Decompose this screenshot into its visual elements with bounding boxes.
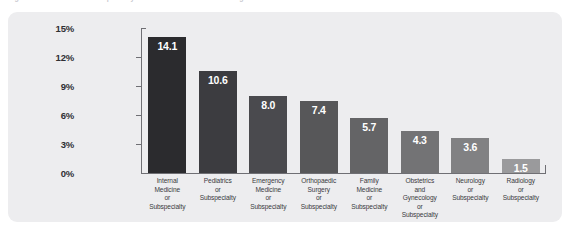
x-axis-category-line: and [393, 186, 448, 195]
x-axis-category-line: or [393, 203, 448, 212]
x-axis-category-line: Pediatrics [191, 177, 246, 186]
x-axis-category-line: Medicine [241, 186, 296, 195]
bar-column[interactable]: 5.7 [350, 28, 388, 173]
x-axis-category-line: Gynecology [393, 194, 448, 203]
bar[interactable]: 3.6 [451, 138, 489, 173]
y-axis-tick-mark [136, 144, 142, 145]
bar-value-label: 8.0 [249, 99, 287, 111]
caption-fragment: Residents [368, 0, 403, 1]
x-axis-category-line: Medicine [140, 186, 195, 195]
x-axis-categories: InternalMedicineorSubspecialtyPediatrics… [142, 177, 546, 223]
x-axis-category-line: or [443, 186, 498, 195]
caption-fragment: Percentage [208, 0, 248, 1]
bar[interactable]: 7.4 [300, 101, 338, 173]
x-axis-category-label: InternalMedicineorSubspecialty [140, 177, 195, 211]
bar[interactable]: 4.3 [401, 131, 439, 173]
x-axis-category-label: PediatricsorSubspecialty [191, 177, 246, 203]
x-axis-category-line: Family [342, 177, 397, 186]
x-axis-category-line: Surgery [292, 186, 347, 195]
bar[interactable]: 5.7 [350, 118, 388, 173]
x-axis-category-line: or [191, 186, 246, 195]
bar[interactable]: 10.6 [199, 71, 237, 173]
bar-value-label: 3.6 [451, 141, 489, 153]
x-axis-category-line: Subspecialty [443, 194, 498, 203]
caption-fragment: Figure [8, 0, 31, 1]
bar-column[interactable]: 1.5 [502, 28, 540, 173]
y-axis-tick-label: 0% [61, 168, 74, 179]
x-axis-category-label: EmergencyMedicineorSubspecialty [241, 177, 296, 211]
y-axis-tick-label: 15% [56, 23, 74, 34]
x-axis-category-line: or [494, 186, 549, 195]
x-axis-category-line: Subspecialty [191, 194, 246, 203]
bar-value-label: 7.4 [300, 104, 338, 116]
bar-column[interactable]: 8.0 [249, 28, 287, 173]
x-axis-category-line: Subspecialty [494, 194, 549, 203]
x-axis-category-label: ObstetricsandGynecologyorSubspecialty [393, 177, 448, 220]
chart-panel: 15%12%9%6%3%0% 14.110.68.07.45.74.33.61.… [8, 12, 562, 222]
x-axis-category-line: Subspecialty [140, 203, 195, 212]
y-axis: 15%12%9%6%3%0% [34, 28, 74, 172]
x-axis-category-line: Obstetrics [393, 177, 448, 186]
x-axis-category-line: Neurology [443, 177, 498, 186]
bar-column[interactable]: 14.1 [148, 28, 186, 173]
y-axis-tick-label: 6% [61, 110, 74, 121]
bar-value-label: 14.1 [148, 40, 186, 52]
x-axis-category-line: Subspecialty [292, 203, 347, 212]
bar-column[interactable]: 7.4 [300, 28, 338, 173]
x-axis-category-line: Subspecialty [241, 203, 296, 212]
x-axis-category-line: Subspecialty [342, 203, 397, 212]
bar-value-label: 1.5 [502, 162, 540, 174]
plot-area: 15%12%9%6%3%0% 14.110.68.07.45.74.33.61.… [8, 12, 562, 222]
x-axis-category-line: or [241, 194, 296, 203]
x-axis-category-line: or [342, 194, 397, 203]
x-axis-category-line: Orthopaedic [292, 177, 347, 186]
bar-series: 14.110.68.07.45.74.33.61.5 [142, 28, 546, 173]
y-axis-tick-mark [136, 57, 142, 58]
x-axis-category-line: or [292, 194, 347, 203]
y-axis-tick-mark [136, 86, 142, 87]
y-axis-tick-label: 12% [56, 52, 74, 63]
bar[interactable]: 1.5 [502, 159, 540, 174]
x-axis-category-line: Radiology [494, 177, 549, 186]
bar[interactable]: 14.1 [148, 37, 186, 173]
y-axis-tick-label: 3% [61, 139, 74, 150]
x-axis-category-label: FamilyMedicineorSubspecialty [342, 177, 397, 211]
caption-fragment: Specialty [102, 0, 135, 1]
bar[interactable]: 8.0 [249, 96, 287, 173]
bar-column[interactable]: 3.6 [451, 28, 489, 173]
x-axis-category-line: or [140, 194, 195, 203]
bar-value-label: 5.7 [350, 121, 388, 133]
bar-column[interactable]: 10.6 [199, 28, 237, 173]
bar-value-label: 4.3 [401, 134, 439, 146]
clipped-caption-strip: FigureSpecialtyPercentageResidents [0, 0, 570, 11]
y-axis-tick-mark [136, 115, 142, 116]
x-axis-category-line: Subspecialty [393, 211, 448, 220]
x-axis-category-label: RadiologyorSubspecialty [494, 177, 549, 203]
x-axis-category-label: NeurologyorSubspecialty [443, 177, 498, 203]
y-axis-tick-label: 9% [61, 81, 74, 92]
x-axis-category-label: OrthopaedicSurgeryorSubspecialty [292, 177, 347, 211]
bar-column[interactable]: 4.3 [401, 28, 439, 173]
bar-value-label: 10.6 [199, 74, 237, 86]
x-axis-category-line: Internal [140, 177, 195, 186]
x-axis-category-line: Medicine [342, 186, 397, 195]
x-axis-category-line: Emergency [241, 177, 296, 186]
